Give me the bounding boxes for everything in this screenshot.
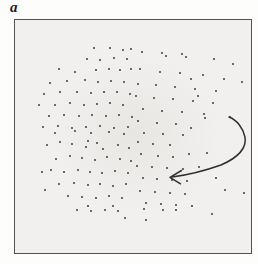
data-dot (44, 189, 46, 191)
data-dot (224, 189, 226, 191)
data-dot (137, 120, 139, 122)
data-dot (108, 195, 110, 197)
data-dot (96, 103, 98, 105)
data-dot (130, 48, 132, 50)
data-dot (121, 197, 123, 199)
data-dot (63, 171, 65, 173)
data-dot (123, 81, 125, 83)
data-dot (243, 192, 245, 194)
data-dot (118, 114, 120, 116)
data-dot (63, 114, 65, 116)
data-dot (49, 82, 51, 84)
data-dot (113, 127, 115, 129)
data-dot (59, 91, 61, 93)
data-dot (90, 132, 92, 134)
data-dot (106, 156, 108, 158)
data-dot (112, 205, 114, 207)
data-dot (161, 52, 163, 54)
data-dot (142, 177, 144, 179)
figure-canvas (0, 0, 258, 264)
data-dot (119, 158, 121, 160)
data-dot (212, 102, 214, 104)
data-dot (73, 182, 75, 184)
data-dot (166, 167, 168, 169)
data-dot (87, 140, 89, 142)
data-dot (122, 49, 124, 51)
data-dot (67, 195, 69, 197)
data-dot (165, 55, 167, 57)
data-dot (105, 115, 107, 117)
data-dot (76, 91, 78, 93)
data-dot (96, 142, 98, 144)
data-dot (129, 93, 131, 95)
data-dot (69, 102, 71, 104)
data-dot (125, 183, 127, 185)
data-dot (110, 80, 112, 82)
data-dot (81, 157, 83, 159)
data-dot (90, 210, 92, 212)
data-dot (85, 126, 87, 128)
data-dot (123, 133, 125, 135)
data-dot (95, 197, 97, 199)
data-dot (128, 147, 130, 149)
data-dot (181, 111, 183, 113)
data-dot (198, 166, 200, 168)
data-dot (102, 148, 104, 150)
data-dot (190, 127, 192, 129)
annotation-arrow-curve (172, 117, 245, 177)
data-dot (57, 125, 59, 127)
data-dot (152, 143, 154, 145)
data-dot (192, 100, 194, 102)
data-dot (161, 110, 163, 112)
data-dot (77, 169, 79, 171)
data-dot (159, 71, 161, 73)
data-dot (155, 84, 157, 86)
data-dot (113, 57, 115, 59)
data-dot (74, 130, 76, 132)
data-dot (160, 203, 162, 205)
data-dot (136, 165, 138, 167)
data-dot (175, 204, 177, 206)
data-dot (46, 144, 48, 146)
data-dot (184, 193, 186, 195)
data-dot (215, 177, 217, 179)
data-dot (99, 59, 101, 61)
data-dot (203, 113, 205, 115)
data-dot (74, 71, 76, 73)
data-dot (169, 192, 171, 194)
data-dot (101, 172, 103, 174)
data-dot (232, 63, 234, 65)
data-dot (143, 132, 145, 134)
data-dot (127, 172, 129, 174)
data-dot (131, 116, 133, 118)
data-dot (213, 58, 215, 60)
data-dot (151, 166, 153, 168)
data-dot (87, 205, 89, 207)
data-dot (117, 144, 119, 146)
data-dot (172, 156, 174, 158)
data-dot (139, 68, 141, 70)
data-dot (71, 143, 73, 145)
data-dot (175, 123, 177, 125)
data-dot (43, 93, 45, 95)
data-dot (109, 47, 111, 49)
data-dot (50, 169, 52, 171)
data-dot (112, 185, 114, 187)
data-dot (116, 91, 118, 93)
data-dot (127, 126, 129, 128)
data-dot (182, 134, 184, 136)
data-dot (190, 78, 192, 80)
data-dot (66, 80, 68, 82)
data-dot (241, 81, 243, 83)
data-dot (188, 153, 190, 155)
data-dot (154, 191, 156, 193)
page: { "panel": { "label": "a" }, "figure": {… (0, 0, 258, 264)
data-dot (93, 47, 95, 49)
data-dot (41, 171, 43, 173)
data-dot (54, 132, 56, 134)
data-dot (48, 115, 50, 117)
data-dot (215, 90, 217, 92)
data-dot (91, 114, 93, 116)
data-dot (182, 168, 184, 170)
data-dot (179, 72, 181, 74)
